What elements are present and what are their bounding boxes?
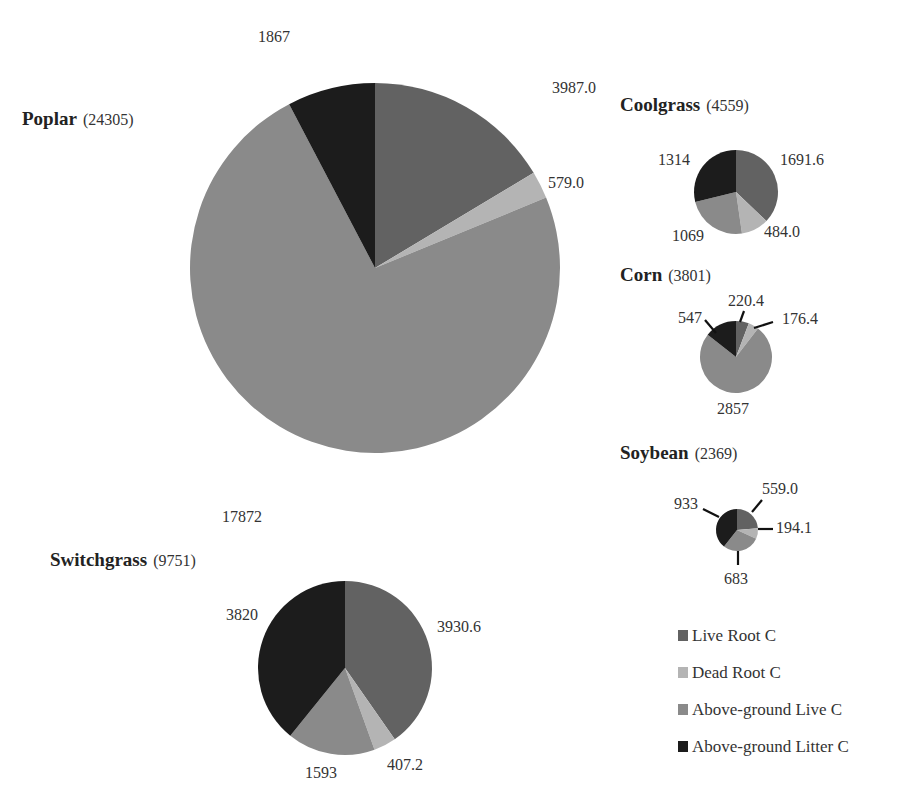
slice-label: 1867 [258,28,290,45]
pie-name: Poplar [22,108,77,129]
leader-line [754,322,773,328]
legend-swatch-above-ground-litter [678,741,688,752]
pie-title-coolgrass: Coolgrass(4559) [620,94,749,115]
slice-label: 1314 [658,151,690,168]
slice-label: 194.1 [776,519,812,536]
slice-label: 1069 [672,227,704,244]
legend-swatch-above-ground-live [678,704,688,715]
leader-line [740,311,744,322]
pie-total: (2369) [695,445,738,463]
leader-line [705,320,716,333]
legend: Live Root C Dead Root C Above-ground Liv… [678,626,849,756]
slice-label: 1691.6 [780,151,824,168]
pie-name: Soybean [620,442,689,463]
slice-label: 220.4 [728,292,764,309]
slice-label: 547 [678,309,702,326]
pie-name: Coolgrass [620,94,700,115]
legend-item-above-ground-live: Above-ground Live C [678,700,842,719]
pie-switchgrass [258,581,432,755]
pie-total: (3801) [668,267,711,285]
pie-total: (24305) [83,111,134,129]
slice-label: 683 [724,570,748,587]
slice-label: 17872 [222,508,262,525]
slice-label: 484.0 [764,223,800,240]
slice-soybean-live-root-c [737,509,758,530]
pie-corn [700,321,772,393]
legend-label-live-root: Live Root C [692,626,776,645]
pie-poplar [190,83,560,453]
legend-item-above-ground-litter: Above-ground Litter C [678,737,849,756]
slice-label: 1593 [305,764,337,781]
legend-label-above-ground-litter: Above-ground Litter C [692,737,849,756]
legend-swatch-dead-root [678,667,688,678]
leader-line [752,500,762,512]
pie-title-poplar: Poplar(24305) [22,108,134,129]
slice-label: 407.2 [387,756,423,773]
pie-title-soybean: Soybean(2369) [620,442,737,463]
slice-label: 176.4 [782,310,818,327]
legend-item-dead-root: Dead Root C [678,663,781,682]
pie-name: Corn [620,264,663,285]
slice-label: 3820 [226,606,258,623]
pie-coolgrass [694,150,778,234]
leader-line [703,509,719,517]
pie-total: (4559) [706,97,749,115]
legend-swatch-live-root [678,630,688,641]
slice-label: 3930.6 [437,618,481,635]
slice-label: 579.0 [548,174,584,191]
pies-group [190,83,778,755]
legend-label-above-ground-live: Above-ground Live C [692,700,842,719]
legend-label-dead-root: Dead Root C [692,663,781,682]
slice-label: 3987.0 [552,79,596,96]
slice-label: 933 [674,495,698,512]
pie-soybean [716,509,758,551]
pie-total: (9751) [153,552,196,570]
pie-title-corn: Corn(3801) [620,264,711,285]
pie-title-switchgrass: Switchgrass(9751) [50,549,196,570]
pie-name: Switchgrass [50,549,147,570]
slice-label: 559.0 [762,480,798,497]
slice-label: 2857 [717,400,749,417]
pie-chart-figure: 3987.0579.01787218671691.6484.0106913142… [0,0,915,805]
legend-item-live-root: Live Root C [678,626,776,645]
